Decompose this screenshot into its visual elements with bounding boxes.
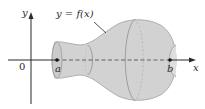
x-axis-label: x [193, 62, 199, 73]
origin-label: 0 [19, 61, 25, 72]
curve-label: y = f(x) [55, 8, 94, 19]
point-a-label: a [55, 63, 61, 74]
y-axis [29, 12, 34, 104]
curve-label-pointer [94, 22, 106, 33]
point-b-label: b [167, 63, 173, 74]
y-axis-label: y [21, 7, 28, 18]
point-b-marker [168, 58, 172, 62]
y-axis-arrow-icon [29, 12, 34, 19]
point-a-marker [55, 58, 59, 62]
solid-of-revolution-diagram: y y = f(x) 0 a b x [0, 0, 205, 109]
